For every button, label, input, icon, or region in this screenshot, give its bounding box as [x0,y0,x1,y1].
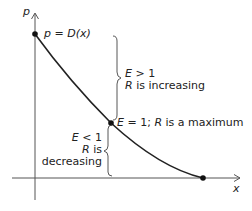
midpoint-label: E = 1; R is a maximum [117,117,243,129]
mid-e-condition: = 1; [124,116,154,129]
mid-e-var: E [117,116,124,129]
upper-brace [113,36,121,120]
lower-brace [104,125,112,176]
upper-region-line2: R is increasing [125,80,205,92]
elasticity-demand-diagram [0,0,252,211]
curve-end-point [200,175,206,181]
mid-r-condition: is a maximum [162,116,243,129]
curve-label-eq: = [51,27,67,40]
curve-label-rhs: D(x) [67,27,91,40]
x-axis-label: x [233,183,240,195]
lower-region-label: E < 1 R is decreasing [42,132,102,168]
mid-r-var: R [154,116,162,129]
lower-region-line3: decreasing [42,156,102,168]
upper-region-label: E > 1 R is increasing [125,68,205,92]
curve-label: p = D(x) [44,28,91,40]
curve-label-lhs: p [44,27,51,40]
x-axis-label-text: x [233,182,240,195]
p-axis-label: p [23,6,30,18]
curve-start-point [32,31,38,37]
upper-r-condition: is increasing [133,79,205,92]
p-axis-label-text: p [23,5,30,18]
lower-e-var: E [72,131,79,144]
upper-r-var: R [125,79,133,92]
